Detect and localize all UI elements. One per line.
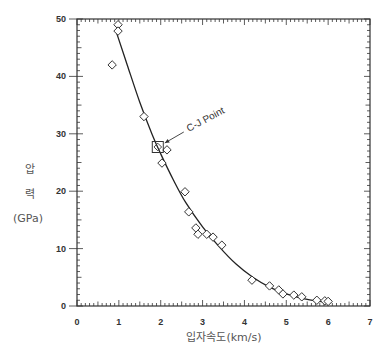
x-axis-title: 입자속도(km/s): [186, 331, 261, 344]
svg-text:50: 50: [56, 14, 66, 24]
svg-text:10: 10: [56, 244, 66, 254]
svg-text:5: 5: [284, 317, 289, 327]
svg-text:0: 0: [74, 317, 79, 327]
svg-text:6: 6: [326, 317, 331, 327]
svg-text:2: 2: [158, 317, 163, 327]
svg-text:0: 0: [61, 301, 66, 311]
cj-point-annotation: C-J Point: [152, 105, 226, 153]
svg-text:20: 20: [56, 186, 66, 196]
tick-labels: 0123456701020304050: [56, 14, 373, 327]
svg-text:7: 7: [367, 317, 372, 327]
svg-text:30: 30: [56, 129, 66, 139]
svg-text:1: 1: [116, 317, 121, 327]
svg-text:40: 40: [56, 71, 66, 81]
y-axis-title-2: 력: [25, 188, 35, 201]
y-axis-title-3: (GPa): [13, 212, 43, 225]
axis-ticks: [77, 19, 370, 306]
plot-frame: [77, 19, 370, 306]
y-axis-title-1: 압: [25, 163, 35, 176]
svg-text:3: 3: [200, 317, 205, 327]
fit-curve: [117, 33, 330, 302]
data-markers: [108, 21, 332, 306]
chart: 0123456701020304050 C-J Point 입자속도(km/s)…: [0, 0, 384, 357]
svg-text:4: 4: [242, 317, 247, 327]
svg-text:C-J Point: C-J Point: [185, 105, 227, 134]
